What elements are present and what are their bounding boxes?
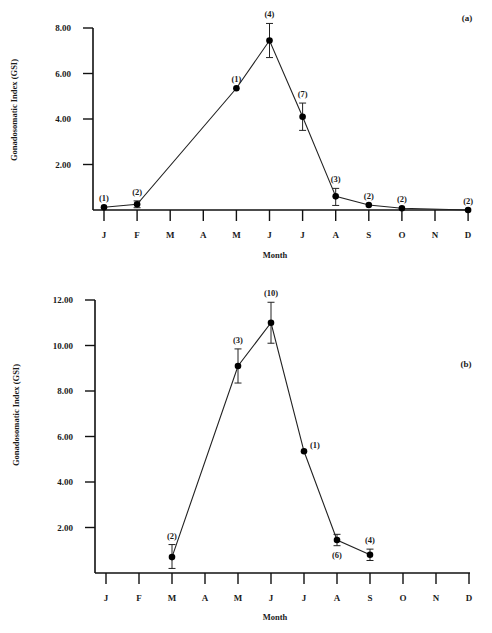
data-point-marker [301, 448, 308, 455]
x-tick-label: J [300, 230, 305, 240]
sample-size-label: (3) [233, 335, 243, 345]
data-point-marker [235, 363, 242, 370]
sample-size-label: (6) [332, 550, 342, 560]
data-point-marker [268, 319, 275, 326]
data-point-marker [399, 205, 406, 212]
sample-size-label: (2) [397, 194, 407, 204]
sample-size-label: (2) [364, 191, 374, 201]
x-tick-label: A [200, 230, 207, 240]
sample-size-label: (7) [298, 89, 308, 99]
panel-label: (b) [461, 359, 472, 369]
y-tick-label: 6.00 [57, 432, 73, 442]
x-tick-label: M [234, 593, 243, 603]
x-tick-label: S [367, 593, 372, 603]
x-tick-label: J [104, 593, 109, 603]
y-tick-label: 8.00 [57, 386, 73, 396]
y-tick-label: 2.00 [57, 523, 73, 533]
x-tick-label: D [465, 230, 472, 240]
data-point-marker [367, 552, 374, 559]
y-tick-label: 2.00 [55, 160, 71, 170]
x-tick-label: M [232, 230, 241, 240]
x-axis-title: Month [263, 250, 288, 260]
x-tick-label: O [398, 230, 405, 240]
x-tick-label: A [334, 593, 341, 603]
y-tick-label: 4.00 [57, 477, 73, 487]
x-axis-title: Month [263, 612, 288, 622]
data-point-marker [169, 554, 176, 561]
data-point-marker [266, 37, 273, 44]
x-tick-label: F [134, 230, 140, 240]
chart-panel-a: 2.004.006.008.00JFMAMJJASONDMonthGonados… [9, 9, 473, 260]
sample-size-label: (3) [331, 174, 341, 184]
sample-size-label: (1) [231, 74, 241, 84]
data-point-marker [332, 193, 339, 200]
sample-size-label: (10) [264, 288, 278, 298]
x-tick-label: N [432, 230, 439, 240]
sample-size-label: (1) [99, 193, 109, 203]
y-tick-label: 8.00 [55, 23, 71, 33]
x-tick-label: F [136, 593, 142, 603]
chart-panel-b: 2.004.006.008.0010.0012.00JFMAMJJASONDMo… [11, 288, 473, 622]
x-tick-label: J [302, 593, 307, 603]
y-tick-label: 10.00 [53, 341, 74, 351]
sample-size-label: (1) [310, 440, 320, 450]
x-tick-label: J [102, 230, 107, 240]
y-tick-label: 6.00 [55, 69, 71, 79]
y-tick-label: 4.00 [55, 114, 71, 124]
data-point-marker [101, 204, 108, 211]
data-point-marker [465, 207, 472, 214]
panel-label: (a) [462, 13, 473, 23]
gsi-line [104, 41, 468, 210]
x-tick-label: N [433, 593, 440, 603]
x-tick-label: D [466, 593, 473, 603]
x-tick-label: J [267, 230, 272, 240]
data-point-marker [299, 113, 306, 120]
y-tick-label: 12.00 [53, 295, 74, 305]
sample-size-label: (2) [167, 531, 177, 541]
x-tick-label: A [332, 230, 339, 240]
gsi-line [172, 323, 370, 557]
sample-size-label: (2) [463, 196, 473, 206]
sample-size-label: (4) [365, 535, 375, 545]
sample-size-label: (2) [132, 187, 142, 197]
x-tick-label: M [168, 593, 177, 603]
x-tick-label: M [166, 230, 175, 240]
sample-size-label: (4) [265, 9, 275, 19]
y-axis-title: Gonadosomatic Index (GSI) [11, 364, 21, 466]
data-point-marker [134, 201, 141, 208]
data-point-marker [233, 85, 240, 92]
y-axis-title: Gonadosomatic Index (GSI) [9, 59, 19, 161]
gsi-figure: 2.004.006.008.00JFMAMJJASONDMonthGonados… [0, 0, 492, 633]
data-point-marker [334, 537, 341, 544]
x-tick-label: A [202, 593, 209, 603]
x-tick-label: J [269, 593, 274, 603]
data-point-marker [366, 202, 373, 209]
x-tick-label: S [366, 230, 371, 240]
x-tick-label: O [399, 593, 406, 603]
